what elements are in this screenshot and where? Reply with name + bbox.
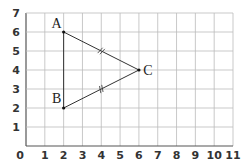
x-tick-label: 8 <box>173 149 181 162</box>
triangle-abc: ABC <box>52 16 153 110</box>
x-tick-label: 4 <box>97 149 105 162</box>
x-tick-label: 2 <box>60 149 68 162</box>
coordinate-grid: 012345678910111234567 ABC <box>0 0 249 166</box>
x-tick-label: 9 <box>192 149 200 162</box>
x-tick-label: 5 <box>116 149 124 162</box>
x-tick-label: 1 <box>41 149 49 162</box>
x-tick-label: 6 <box>135 149 143 162</box>
axis-tick-labels: 012345678910111234567 <box>12 7 240 162</box>
y-tick-label: 2 <box>12 102 20 115</box>
point-label-A: A <box>52 16 63 31</box>
y-tick-label: 1 <box>12 121 20 134</box>
x-tick-label: 7 <box>154 149 162 162</box>
y-tick-label: 5 <box>12 45 20 58</box>
x-tick-label: 11 <box>225 149 240 162</box>
point-C <box>137 68 140 71</box>
point-A <box>62 30 65 33</box>
x-tick-label: 10 <box>207 149 223 162</box>
x-tick-label: 3 <box>79 149 87 162</box>
y-tick-label: 7 <box>12 7 20 20</box>
point-label-B: B <box>52 91 61 106</box>
x-tick-label: 0 <box>16 149 24 162</box>
grid-lines <box>26 13 233 146</box>
y-tick-label: 3 <box>12 83 20 96</box>
point-label-C: C <box>143 63 152 78</box>
y-tick-label: 4 <box>12 64 20 77</box>
y-tick-label: 6 <box>12 26 20 39</box>
point-B <box>62 106 65 109</box>
